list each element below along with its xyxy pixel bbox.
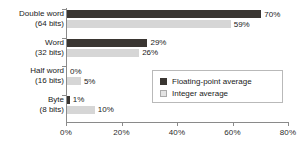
legend-item-floating-point: Floating-point average: [160, 75, 282, 87]
bar-integer: [67, 106, 95, 114]
category-label-name: Double word: [19, 9, 64, 18]
legend-swatch-icon-floating-point: [160, 78, 167, 85]
bar-value-label: 70%: [264, 11, 280, 19]
x-tick-label: 0%: [60, 128, 72, 137]
bar-value-label: 1%: [73, 96, 85, 104]
chart-legend: Floating-point average Integer average: [152, 70, 283, 103]
legend-label-integer: Integer average: [172, 89, 228, 98]
legend-swatch-icon-integer: [160, 90, 167, 97]
bar-value-label: 0%: [70, 68, 82, 76]
x-tick-label: 80%: [280, 128, 297, 137]
bar-value-label: 29%: [150, 39, 166, 47]
bar-floating-point: [67, 39, 147, 47]
bar-value-label: 26%: [142, 49, 158, 57]
x-tick: [288, 122, 289, 126]
legend-label-floating-point: Floating-point average: [172, 77, 252, 86]
category-label: Byte(8 bits): [0, 95, 64, 115]
bar-integer: [67, 49, 139, 57]
category-label: Half word(16 bits): [0, 66, 64, 86]
x-tick: [122, 122, 123, 126]
category-label-sub: (64 bits): [0, 19, 64, 29]
bar-floating-point: [67, 96, 70, 104]
bar-value-label: 10%: [98, 106, 114, 114]
bar-floating-point: [67, 10, 261, 18]
x-tick-label: 40%: [169, 128, 186, 137]
bar-chart: 0%20%40%60%80% Double word(64 bits)Word(…: [0, 0, 302, 146]
x-tick-label: 60%: [224, 128, 241, 137]
x-tick: [177, 122, 178, 126]
x-tick: [66, 122, 67, 126]
category-label-name: Byte: [48, 95, 64, 104]
category-label-sub: (8 bits): [0, 105, 64, 115]
bar-value-label: 5%: [84, 78, 96, 86]
bar-integer: [67, 77, 81, 85]
category-label-name: Word: [45, 38, 64, 47]
category-label-sub: (16 bits): [0, 76, 64, 86]
x-tick: [233, 122, 234, 126]
legend-item-integer: Integer average: [160, 87, 282, 99]
category-label-name: Half word: [30, 66, 64, 75]
category-label-sub: (32 bits): [0, 48, 64, 58]
bar-integer: [67, 20, 231, 28]
bar-value-label: 59%: [234, 21, 250, 29]
category-label: Word(32 bits): [0, 38, 64, 58]
category-label: Double word(64 bits): [0, 9, 64, 29]
x-tick-label: 20%: [113, 128, 130, 137]
